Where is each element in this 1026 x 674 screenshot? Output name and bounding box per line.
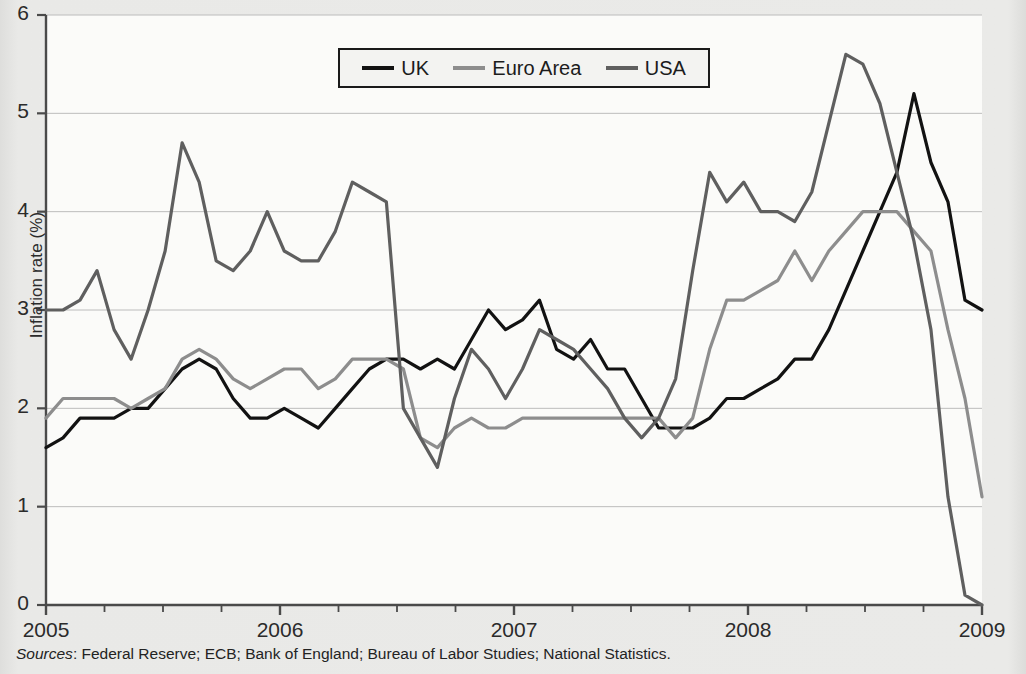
sources-text: : Federal Reserve; ECB; Bank of England;… xyxy=(73,645,671,662)
legend-swatch-usa xyxy=(606,66,638,70)
y-tick-label: 3 xyxy=(0,296,29,320)
sources-prefix: Sources xyxy=(16,645,73,662)
legend-label-uk: UK xyxy=(401,57,429,80)
x-tick-label: 2005 xyxy=(1,618,91,642)
inflation-rate-line-chart: Inflation rate (%) 0123456 2005200620072… xyxy=(0,0,1026,674)
y-tick-label: 5 xyxy=(0,99,29,123)
y-tick-label: 2 xyxy=(0,394,29,418)
legend-entry-usa: USA xyxy=(606,57,686,80)
y-tick-label: 6 xyxy=(0,1,29,25)
legend-entry-euro-area: Euro Area xyxy=(453,57,581,80)
x-tick-marks xyxy=(46,605,982,615)
x-tick-label: 2008 xyxy=(703,618,793,642)
legend-swatch-uk xyxy=(362,66,394,70)
legend-swatch-euro-area xyxy=(453,66,485,70)
y-tick-label: 4 xyxy=(0,198,29,222)
legend-label-usa: USA xyxy=(645,57,686,80)
chart-legend: UK Euro Area USA xyxy=(338,48,710,88)
x-tick-label: 2007 xyxy=(469,618,559,642)
y-tick-label: 0 xyxy=(0,591,29,615)
y-tick-label: 1 xyxy=(0,493,29,517)
x-tick-label: 2009 xyxy=(937,618,1026,642)
sources-caption: Sources: Federal Reserve; ECB; Bank of E… xyxy=(16,645,671,663)
legend-entry-uk: UK xyxy=(362,57,429,80)
x-tick-label: 2006 xyxy=(235,618,325,642)
plot-area xyxy=(0,0,1026,674)
legend-label-euro-area: Euro Area xyxy=(492,57,581,80)
y-axis-title: Inflation rate (%) xyxy=(27,175,47,375)
